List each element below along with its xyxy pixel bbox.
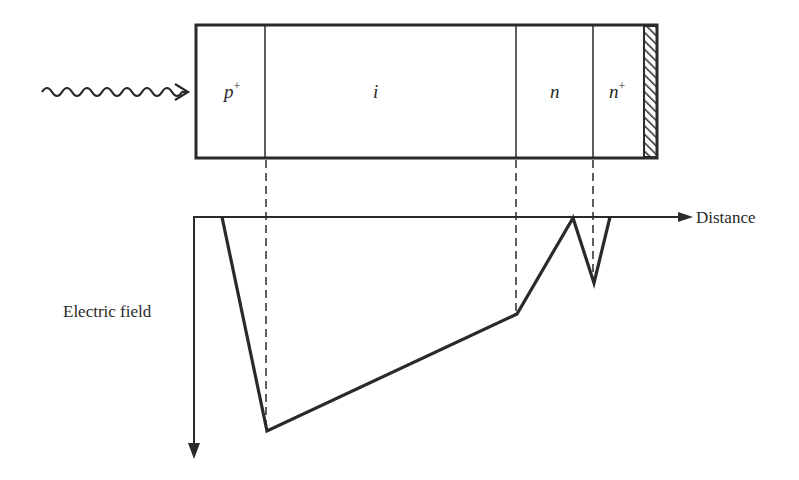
device-structure: p+ i n n+ bbox=[196, 25, 657, 158]
region-label-n: n bbox=[550, 81, 560, 102]
region-label-p-plus: p+ bbox=[222, 79, 241, 102]
hatched-metal-contact bbox=[644, 26, 657, 157]
x-axis-label: Distance bbox=[696, 208, 755, 227]
x-axis-arrowhead-icon bbox=[678, 212, 693, 222]
region-label-n-plus: n+ bbox=[609, 79, 626, 102]
region-label-i: i bbox=[373, 81, 378, 102]
electric-field-curve bbox=[222, 217, 610, 431]
boundary-projection-lines bbox=[266, 160, 593, 428]
wavy-arrow-light-icon bbox=[42, 84, 189, 100]
y-axis-arrowhead-icon bbox=[188, 443, 200, 459]
axes: Distance Electric field bbox=[63, 208, 755, 459]
y-axis-label: Electric field bbox=[63, 302, 152, 321]
pin-diode-diagram: p+ i n n+ Distance Electric field bbox=[0, 0, 799, 480]
